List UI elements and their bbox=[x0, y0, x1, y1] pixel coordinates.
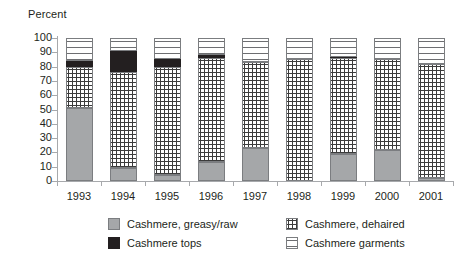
legend-item[interactable]: Cashmere garments bbox=[286, 237, 405, 249]
y-axis-tick-mark bbox=[52, 167, 58, 168]
bar-segment bbox=[374, 38, 401, 59]
bar-1994[interactable] bbox=[110, 38, 137, 181]
bar-segment bbox=[418, 38, 445, 64]
bar-segment bbox=[198, 58, 225, 162]
y-axis-tick-label: 50 bbox=[40, 104, 52, 115]
bar-2001[interactable] bbox=[418, 38, 445, 181]
bar-segment bbox=[66, 108, 93, 181]
x-axis-tick-mark bbox=[409, 181, 410, 186]
bar-segment bbox=[110, 72, 137, 168]
x-axis-tick-label-1999: 1999 bbox=[321, 190, 365, 202]
bar-segment bbox=[330, 38, 357, 57]
bar-segment bbox=[374, 150, 401, 181]
bar-segment bbox=[286, 59, 313, 181]
x-axis-tick-label-1996: 1996 bbox=[189, 190, 233, 202]
x-axis-tick-mark bbox=[277, 181, 278, 186]
bar-segment bbox=[154, 38, 181, 59]
chart-legend: Cashmere, greasy/rawCashmere, dehairedCa… bbox=[108, 218, 458, 254]
legend-item-label: Cashmere tops bbox=[127, 237, 202, 249]
x-axis-tick-label-1993: 1993 bbox=[57, 190, 101, 202]
legend-item-label: Cashmere, dehaired bbox=[305, 218, 405, 230]
bar-segment bbox=[66, 61, 93, 67]
y-axis-tick-mark bbox=[52, 138, 58, 139]
legend-item[interactable]: Cashmere, dehaired bbox=[286, 218, 405, 230]
y-axis-tick-mark bbox=[52, 152, 58, 153]
y-axis-tick-mark bbox=[52, 38, 58, 39]
bar-segment bbox=[198, 38, 225, 55]
dotted-grid-swatch bbox=[286, 218, 298, 230]
solid-gray-swatch bbox=[108, 218, 120, 230]
bar-segment bbox=[242, 62, 269, 148]
bar-segment bbox=[154, 175, 181, 181]
bar-1997[interactable] bbox=[242, 38, 269, 181]
bar-2000[interactable] bbox=[374, 38, 401, 181]
bar-segment bbox=[154, 67, 181, 176]
x-axis-tick-label-2001: 2001 bbox=[409, 190, 453, 202]
x-axis-tick-mark bbox=[365, 181, 366, 186]
bar-1998[interactable] bbox=[286, 38, 313, 181]
solid-black-swatch bbox=[108, 237, 120, 249]
y-axis-tick-label: 20 bbox=[40, 146, 52, 157]
x-axis-tick-mark bbox=[233, 181, 234, 186]
bar-1993[interactable] bbox=[66, 38, 93, 181]
x-axis-tick-label-2000: 2000 bbox=[365, 190, 409, 202]
x-axis-line bbox=[57, 181, 453, 182]
bar-segment bbox=[198, 162, 225, 181]
x-axis-tick-mark bbox=[145, 181, 146, 186]
horizontal-lines-swatch bbox=[286, 237, 298, 249]
y-axis-tick-mark bbox=[52, 95, 58, 96]
y-axis-tick-label: 30 bbox=[40, 132, 52, 143]
stacked-bar-chart: Percent 0102030405060708090100 Cashmere,… bbox=[0, 0, 464, 256]
bar-segment bbox=[418, 178, 445, 181]
bar-1999[interactable] bbox=[330, 38, 357, 181]
bar-segment bbox=[66, 38, 93, 61]
bar-segment bbox=[330, 58, 357, 154]
x-axis-tick-label-1994: 1994 bbox=[101, 190, 145, 202]
x-axis-tick-label-1998: 1998 bbox=[277, 190, 321, 202]
x-axis-tick-mark bbox=[321, 181, 322, 186]
x-axis-tick-label-1995: 1995 bbox=[145, 190, 189, 202]
x-axis-tick-mark bbox=[57, 181, 58, 186]
x-axis-tick-mark bbox=[189, 181, 190, 186]
legend-item[interactable]: Cashmere tops bbox=[108, 237, 202, 249]
y-axis-tick-label: 90 bbox=[40, 46, 52, 57]
y-axis-tick-label: 80 bbox=[40, 61, 52, 72]
y-axis-tick-mark bbox=[52, 124, 58, 125]
bar-segment bbox=[198, 55, 225, 58]
bar-segment bbox=[110, 168, 137, 181]
y-axis-tick-label: 10 bbox=[40, 161, 52, 172]
bar-segment bbox=[154, 59, 181, 66]
y-axis-tick-label: 70 bbox=[40, 75, 52, 86]
y-axis-tick-mark bbox=[52, 52, 58, 53]
y-axis-tick-mark bbox=[52, 67, 58, 68]
legend-item[interactable]: Cashmere, greasy/raw bbox=[108, 218, 238, 230]
y-axis-tick-label: 100 bbox=[34, 32, 52, 43]
y-axis-tick-labels: 0102030405060708090100 bbox=[14, 0, 52, 256]
x-axis-tick-mark bbox=[453, 181, 454, 186]
bar-1996[interactable] bbox=[198, 38, 225, 181]
bar-segment bbox=[330, 154, 357, 181]
x-axis-tick-label-1997: 1997 bbox=[233, 190, 277, 202]
bar-segment bbox=[110, 38, 137, 51]
y-axis-tick-mark bbox=[52, 110, 58, 111]
y-axis-tick-mark bbox=[52, 81, 58, 82]
bar-segment bbox=[110, 51, 137, 72]
legend-item-label: Cashmere garments bbox=[305, 237, 405, 249]
y-axis-tick-label: 40 bbox=[40, 118, 52, 129]
plot-area bbox=[57, 38, 453, 181]
legend-item-label: Cashmere, greasy/raw bbox=[127, 218, 238, 230]
bar-segment bbox=[374, 59, 401, 149]
y-axis-tick-label: 60 bbox=[40, 89, 52, 100]
bar-segment bbox=[242, 38, 269, 62]
bar-1995[interactable] bbox=[154, 38, 181, 181]
x-axis-tick-mark bbox=[101, 181, 102, 186]
bar-segment bbox=[418, 64, 445, 178]
bar-segment bbox=[242, 148, 269, 181]
bar-segment bbox=[286, 38, 313, 59]
bar-segment bbox=[66, 67, 93, 108]
